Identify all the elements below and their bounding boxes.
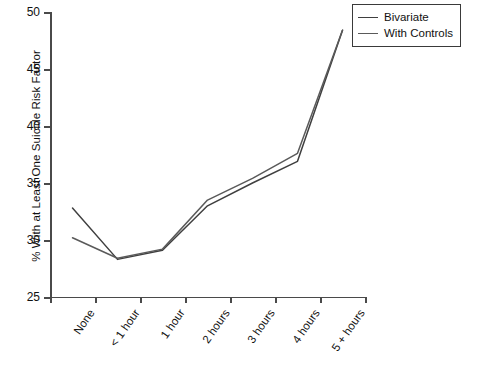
series-line [73,30,343,258]
legend-item: With Controls [358,25,453,41]
series-line [73,30,343,259]
chart-legend: BivariateWith Controls [352,4,461,47]
series-lines [0,0,477,366]
line-chart-figure: % With at Least One Suicide Risk Factor … [0,0,477,366]
legend-item: Bivariate [358,9,453,25]
legend-line-swatch [358,17,378,18]
legend-label: With Controls [384,27,453,39]
legend-line-swatch [358,33,378,34]
legend-label: Bivariate [384,11,429,23]
